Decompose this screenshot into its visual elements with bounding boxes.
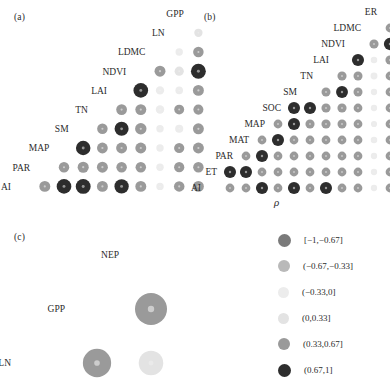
corr-dot [386, 120, 390, 129]
corr-dot [337, 71, 346, 80]
corr-dot [258, 168, 267, 177]
corr-dot [336, 86, 348, 98]
corr-dot [274, 120, 283, 129]
corr-dot [274, 184, 283, 193]
legend-swatch-circle-icon [278, 338, 290, 350]
corr-dot [337, 103, 346, 112]
corr-dot [371, 153, 377, 159]
legend-label: (0.67,1] [304, 365, 333, 375]
corr-dot [242, 184, 251, 193]
legend-item: (−0.33,0] [278, 284, 336, 300]
corr-dot [371, 73, 378, 80]
corr-dot [371, 169, 377, 175]
corr-dot [274, 152, 283, 161]
corr-dot [354, 184, 363, 193]
legend-label: [−1,−0.67] [304, 235, 343, 245]
legend-label: (0.33,0.67] [303, 339, 343, 349]
corr-dot [272, 134, 284, 146]
corr-dot [352, 54, 364, 66]
corr-dot [306, 168, 315, 177]
legend-item: (0,0.33] [278, 310, 331, 326]
legend-swatch-circle-icon [278, 313, 289, 324]
corr-dot [354, 88, 363, 97]
variable-label-ndvi: NDVI [321, 39, 345, 49]
corr-dot [288, 102, 300, 114]
variable-label-lai: LAI [313, 55, 329, 65]
corr-dot [354, 120, 363, 129]
corr-dot [306, 136, 315, 145]
corr-dot [386, 24, 390, 33]
legend-item: (0.67,1] [278, 362, 333, 378]
corr-dot [288, 182, 300, 194]
corr-dot [384, 38, 390, 50]
corr-dot [369, 39, 378, 48]
corr-dot [371, 137, 378, 144]
legend-swatch-circle-icon [278, 287, 289, 298]
variable-label-er: ER [365, 7, 378, 17]
variable-label-nep: NEP [101, 250, 119, 260]
corr-dot [338, 136, 347, 145]
corr-dot [386, 136, 390, 145]
corr-dot [371, 89, 377, 95]
corr-dot [371, 185, 377, 191]
corr-dot [83, 349, 111, 377]
corr-dot [322, 168, 331, 177]
variable-label-tn: TN [300, 71, 313, 81]
corr-dot [290, 168, 299, 177]
corr-dot [354, 152, 363, 161]
legend-swatch-circle-icon [278, 260, 290, 272]
corr-dot [290, 136, 299, 145]
legend-item: (0.33,0.67] [278, 336, 343, 352]
corr-dot [322, 136, 331, 145]
variable-label-ldmc: LDMC [334, 23, 361, 33]
corr-dot [135, 293, 167, 325]
corr-dot [386, 152, 390, 161]
panel-c-tag: (c) [14, 232, 25, 242]
corr-dot [338, 152, 347, 161]
corr-dot [371, 57, 378, 64]
legend-label: (0,0.33] [302, 313, 331, 323]
corr-dot [354, 72, 363, 81]
corr-dot [274, 168, 283, 177]
corr-dot [386, 72, 390, 81]
corr-dot [320, 182, 332, 194]
variable-label-soc: SOC [263, 103, 281, 113]
corr-dot [224, 166, 236, 178]
rho-axis-label: ρ [274, 196, 279, 208]
legend-label: (−0.67,−0.33] [303, 261, 353, 271]
corr-dot [322, 88, 331, 97]
corr-dot [386, 88, 390, 97]
corr-dot [288, 118, 300, 130]
variable-label-ai: AI [191, 183, 201, 193]
corr-dot [306, 184, 315, 193]
corr-dot [386, 168, 390, 177]
variable-label-et: ET [205, 167, 217, 177]
corr-dot [256, 182, 268, 194]
corr-dot [338, 168, 347, 177]
corr-dot [306, 152, 315, 161]
corr-dot [305, 119, 314, 128]
legend-swatch-circle-icon [278, 364, 291, 377]
variable-label-sm: SM [283, 87, 297, 97]
corr-dot [386, 104, 390, 113]
corr-dot [304, 102, 316, 114]
corr-dot [386, 184, 390, 193]
corr-dot [354, 136, 363, 145]
corr-dot [321, 103, 330, 112]
corr-dot [371, 121, 377, 127]
corr-dot [322, 152, 331, 161]
legend-item: [−1,−0.67] [278, 232, 343, 248]
corr-dot [290, 152, 299, 161]
corr-dot [240, 166, 252, 178]
correlation-figure: (a) GPPLNLDMCNDVILAITNSMMAPPARAI (b) ERL… [0, 0, 390, 384]
corr-dot [354, 104, 363, 113]
variable-label-gpp: GPP [48, 304, 65, 314]
legend-swatch-circle-icon [278, 234, 291, 247]
corr-dot [226, 184, 235, 193]
corr-dot [338, 120, 347, 129]
corr-dot [371, 105, 377, 111]
corr-dot [139, 351, 164, 376]
corr-dot [321, 119, 330, 128]
corr-dot [338, 184, 347, 193]
variable-label-ln: LN [0, 358, 11, 368]
